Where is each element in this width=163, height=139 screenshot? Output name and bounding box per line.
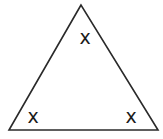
triangle-diagram: x x x [0,0,163,139]
angle-label-top: x [79,26,90,48]
angle-label-bottom-left: x [27,105,38,127]
angle-label-bottom-right: x [125,105,136,127]
